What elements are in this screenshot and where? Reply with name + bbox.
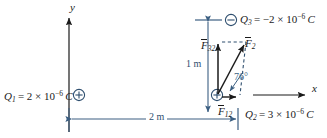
vector-label-f32: F32: [201, 40, 215, 53]
charge-symbol-q3: [225, 14, 236, 25]
charge-q2-exponent: −6: [296, 107, 304, 116]
charge-label-q1: Q1 = 2 × 10−6 C: [4, 90, 73, 103]
charge-symbol-q2: [211, 89, 222, 100]
charge-q2-value: = 3 × 10: [259, 108, 296, 120]
charge-q1-exponent: −6: [55, 89, 63, 98]
charge-q1-value: = 2 × 10: [18, 90, 55, 102]
dimension-label-1m: 1 m: [186, 59, 201, 69]
y-axis-label: y: [70, 2, 75, 13]
charge-q3-unit: C: [307, 13, 314, 25]
vector-f32-subscript: 32: [208, 44, 215, 53]
force-vector-diagram: y x Q1 = 2 × 10−6 C Q3 = −2 × 10−6 C Q2 …: [0, 0, 327, 138]
vector-f32-name: F: [201, 40, 208, 51]
vector-f12-subscript: 12: [225, 110, 232, 119]
vector-label-f2: F2: [245, 38, 255, 51]
charge-q3-name: Q: [240, 13, 248, 25]
charge-q2-unit: C: [306, 108, 313, 120]
dimension-label-2m: 2 m: [146, 112, 167, 122]
charge-q1-unit: C: [65, 90, 72, 102]
charge-q3-value: = −2 × 10: [254, 13, 297, 25]
charge-label-q3: Q3 = −2 × 10−6 C: [240, 13, 315, 26]
charge-symbol-q1: [73, 89, 84, 100]
vector-f2-subscript: 2: [252, 42, 256, 51]
charge-label-q2: Q2 = 3 × 10−6 C: [245, 108, 314, 121]
angle-label: 76°: [234, 72, 248, 82]
charge-q2-name: Q: [245, 108, 253, 120]
parallelogram-construction: [222, 42, 246, 95]
vector-f2: [218, 45, 244, 94]
vector-f12-name: F: [218, 106, 225, 117]
x-axis-label: x: [312, 83, 317, 94]
vector-label-f12: F12: [218, 106, 232, 119]
vector-f2-name: F: [245, 38, 252, 49]
charge-q1-name: Q: [4, 90, 12, 102]
